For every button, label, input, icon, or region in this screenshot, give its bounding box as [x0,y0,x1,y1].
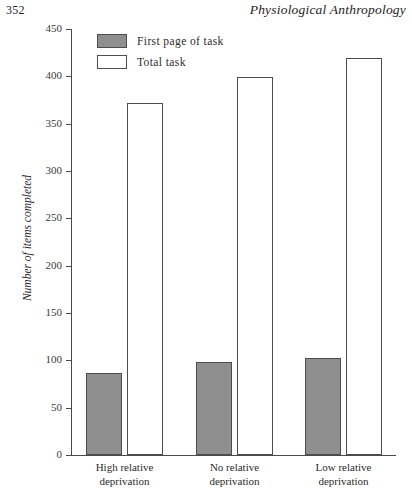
y-axis-tick-label: 350 [38,117,62,129]
x-axis-category-label-line: No relative [175,461,295,475]
bar-chart-figure: Number of items completed 05010015020025… [0,0,412,496]
bar [346,58,382,455]
y-axis-tick-label: 250 [38,211,62,223]
y-axis-tick-label: 0 [38,448,62,460]
y-axis-tick-label: 100 [38,353,62,365]
bar [127,103,163,455]
y-axis-tick [66,29,71,30]
y-axis-tick [66,408,71,409]
y-axis-line [71,29,72,456]
x-axis-category-label-line: deprivation [284,475,404,489]
y-axis-tick-label: 150 [38,306,62,318]
x-axis-category-label-line: Low relative [284,461,404,475]
legend-swatch-outline-white-icon [97,55,127,69]
y-axis-tick [66,360,71,361]
bar [196,362,232,455]
y-axis-tick-label: 450 [38,22,62,34]
y-axis-tick-label: 50 [38,401,62,413]
x-axis-line [71,455,396,456]
x-axis-category-label: Low relativedeprivation [284,461,404,488]
legend-swatch-filled-gray-icon [97,34,127,48]
legend-label: Total task [137,56,186,68]
y-axis-tick [66,266,71,267]
y-axis-tick-label: 400 [38,69,62,81]
y-axis-title: Number of items completed [21,168,33,308]
legend-item-total-task: Total task [97,51,224,72]
y-axis-tick [66,171,71,172]
legend-item-first-page: First page of task [97,30,224,51]
bar [237,77,273,455]
x-axis-category-label: No relativedeprivation [175,461,295,488]
bar [86,373,122,455]
chart-legend: First page of task Total task [97,30,224,72]
y-axis-tick [66,76,71,77]
x-axis-category-label-line: deprivation [65,475,185,489]
x-axis-category-label-line: deprivation [175,475,295,489]
y-axis-tick-label: 200 [38,259,62,271]
y-axis-tick [66,313,71,314]
bar [305,358,341,455]
x-axis-category-label-line: High relative [65,461,185,475]
y-axis-tick [66,124,71,125]
y-axis-tick-label: 300 [38,164,62,176]
x-axis-category-label: High relativedeprivation [65,461,185,488]
scan-page-edge [0,488,412,496]
legend-label: First page of task [137,35,224,47]
y-axis-tick [66,218,71,219]
y-axis-tick [66,455,71,456]
